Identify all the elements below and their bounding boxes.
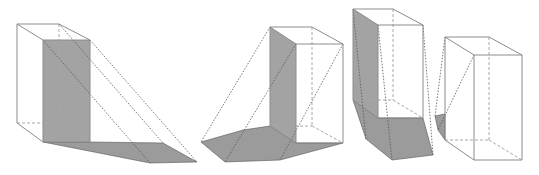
diagram-canvas — [0, 0, 539, 175]
shadow-diagram — [0, 0, 539, 175]
box-2-light-ray — [201, 27, 270, 142]
box-4-light-ray — [435, 37, 445, 116]
box-2-hidden-edge — [312, 126, 343, 143]
box-4-edge — [445, 140, 474, 160]
box-1-shadow — [43, 142, 197, 163]
box-4-hidden-edge — [489, 140, 522, 160]
box-4-top-face — [445, 37, 522, 55]
box-3-hidden-edge — [393, 100, 423, 118]
box-1-shaded-face — [43, 40, 90, 142]
box-1-edge — [17, 123, 43, 142]
box-1-top-face — [17, 24, 90, 40]
box-3-shaded-face — [353, 9, 378, 118]
